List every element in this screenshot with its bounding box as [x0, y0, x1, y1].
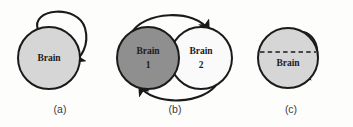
panel-a-caption: (a): [54, 103, 67, 115]
brain-node-b2-label-line2: 2: [199, 60, 204, 70]
brain-node-b1[interactable]: [117, 27, 179, 89]
brain-node-a-label: Brain: [37, 53, 61, 63]
panel-b-caption: (b): [169, 103, 182, 115]
brain-node-b1-label-line2: 1: [146, 60, 151, 70]
panel-b: Brain 1 Brain 2 (b): [117, 15, 232, 115]
brain-node-b2-label-line1: Brain: [189, 46, 213, 56]
figure-canvas: Brain (a) Brain 1 Brain 2 (b) Brain (c): [0, 0, 353, 127]
brain-interaction-figure: Brain (a) Brain 1 Brain 2 (b) Brain (c): [0, 0, 353, 127]
brain-node-c-label: Brain: [276, 58, 300, 68]
panel-a: Brain (a): [18, 12, 86, 115]
panel-c-caption: (c): [285, 103, 297, 115]
brain-node-b1-label-line1: Brain: [136, 46, 160, 56]
panel-c: Brain (c): [258, 28, 318, 115]
